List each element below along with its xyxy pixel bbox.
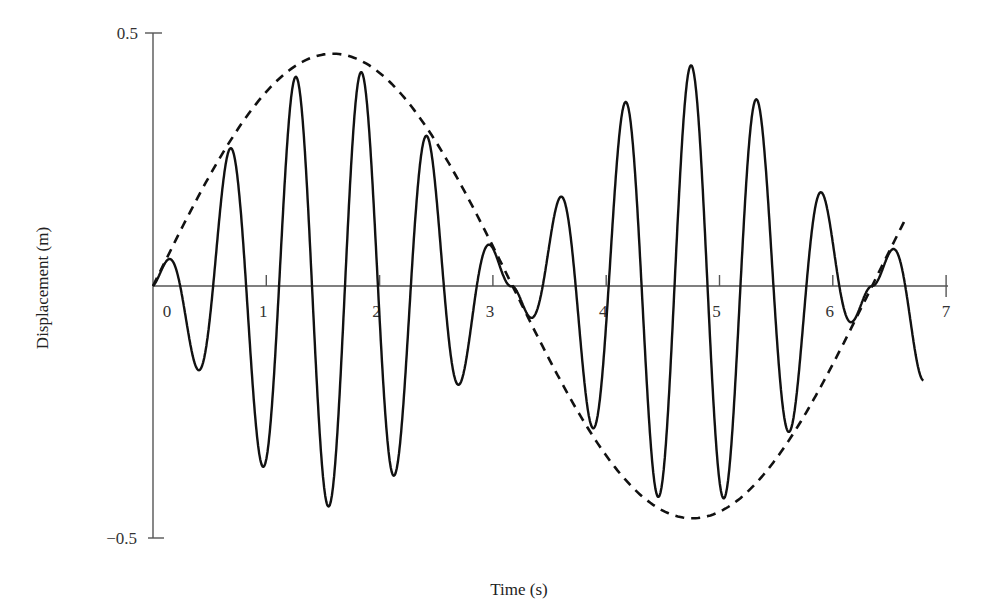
y-tick-label-top: 0.5 xyxy=(117,24,138,43)
y-axis-title: Displacement (m) xyxy=(33,227,52,349)
x-tick-label: 1 xyxy=(259,302,268,321)
x-tick-label: 7 xyxy=(942,302,951,321)
x-tick-label: 0 xyxy=(163,302,172,321)
x-axis-title: Time (s) xyxy=(490,580,547,599)
x-tick-labels: 01234567 xyxy=(163,302,951,321)
x-tick-label: 3 xyxy=(486,302,495,321)
x-tick-label: 5 xyxy=(712,302,721,321)
x-tick-label: 6 xyxy=(826,302,835,321)
y-tick-label-bottom: −0.5 xyxy=(106,529,137,548)
displacement-time-chart: 01234567 0.5 −0.5 Displacement (m) Time … xyxy=(0,0,996,599)
